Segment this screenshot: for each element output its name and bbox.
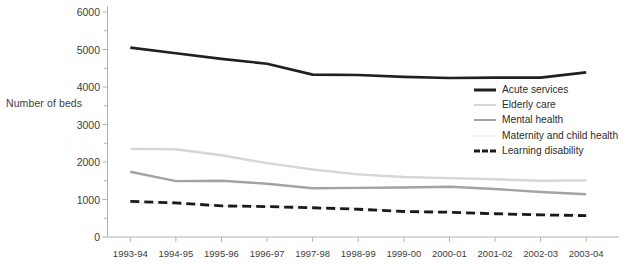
legend-label: Mental health: [502, 115, 563, 125]
x-tick-label: 2000-01: [432, 248, 467, 259]
series-line-acute-services: [130, 48, 586, 78]
legend-item: Elderly care: [474, 97, 624, 112]
chart-legend: Acute servicesElderly careMental healthM…: [474, 82, 624, 159]
legend-item: Acute services: [474, 82, 624, 97]
legend-label: Learning disability: [502, 146, 584, 156]
legend-item: Mental health: [474, 113, 624, 128]
x-tick-label: 1996-97: [250, 248, 285, 259]
legend-label: Elderly care: [502, 100, 556, 110]
x-tick-label: 1998-99: [341, 248, 376, 259]
legend-item: Learning disability: [474, 144, 624, 159]
x-tick-label: 1995-96: [204, 248, 239, 259]
x-tick-label: 1993-94: [113, 248, 148, 259]
line-chart: Number of beds 0100020003000400050006000…: [0, 0, 625, 267]
x-tick-label: 1997-98: [295, 248, 330, 259]
legend-label: Maternity and child health: [502, 131, 618, 141]
x-tick-label: 1999-00: [386, 248, 421, 259]
x-tick-label: 2001-02: [478, 248, 513, 259]
x-tick-label: 2002-03: [523, 248, 558, 259]
legend-item: Maternity and child health: [474, 128, 624, 143]
legend-label: Acute services: [502, 85, 568, 95]
x-tick-label: 1994-95: [158, 248, 193, 259]
x-tick-label: 2003-04: [569, 248, 604, 259]
